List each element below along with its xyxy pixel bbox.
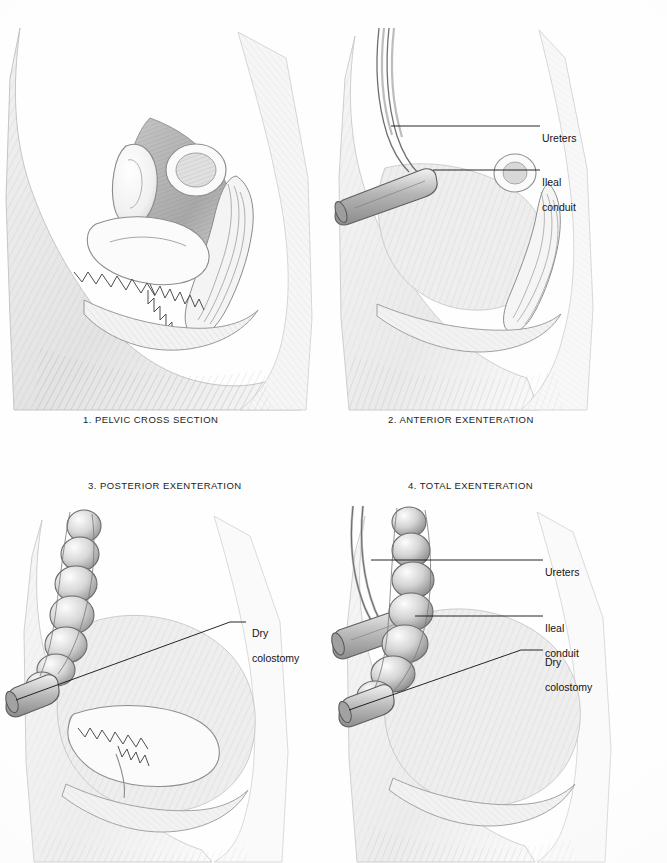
label-ileal-conduit-panel-2: Ileal conduit [542,163,576,226]
ureters-tubes [377,28,419,174]
pelvic-cross-section-figure [0,18,320,410]
caption-panel-1: 1. PELVIC CROSS SECTION [83,414,218,425]
label-ureters-text: Ureters [545,566,579,578]
label-dry-line-1: Dry [545,656,592,669]
panel-anterior-exenteration: Ureters Ileal conduit 2. ANTERIOR EXENTE… [325,18,667,408]
panel-total-exenteration: 4. TOTAL EXENTERATION [325,480,667,863]
label-dry-line-2: colostomy [252,652,299,665]
caption-panel-3: 3. POSTERIOR EXENTERATION [88,480,242,491]
label-ureters-text: Ureters [542,132,576,144]
label-ileal-line-1: Ileal [545,622,579,635]
caption-panel-4: 4. TOTAL EXENTERATION [408,480,533,491]
total-exenteration-figure [325,502,667,862]
panel-posterior-exenteration: 3. POSTERIOR EXENTERATION [0,480,330,863]
caption-panel-2: 2. ANTERIOR EXENTERATION [388,414,534,425]
label-ileal-line-1: Ileal [542,176,576,189]
label-ureters-panel-2: Ureters [542,119,576,144]
illustration-plate: 1. PELVIC CROSS SECTION [0,0,667,863]
anterior-exenteration-figure [325,18,667,410]
bladder [166,144,226,196]
label-dry-line-2: colostomy [545,681,592,694]
panel-pelvic-cross-section: 1. PELVIC CROSS SECTION [0,18,320,408]
label-dry-colostomy-panel-4: Dry colostomy [545,643,592,706]
label-dry-colostomy-panel-3: Dry colostomy [252,614,299,677]
vaginal-vault-remnant [494,154,536,192]
label-ureters-panel-4: Ureters [545,553,579,578]
label-dry-line-1: Dry [252,627,299,640]
label-ileal-line-2: conduit [542,201,576,214]
posterior-exenteration-figure [0,502,330,862]
